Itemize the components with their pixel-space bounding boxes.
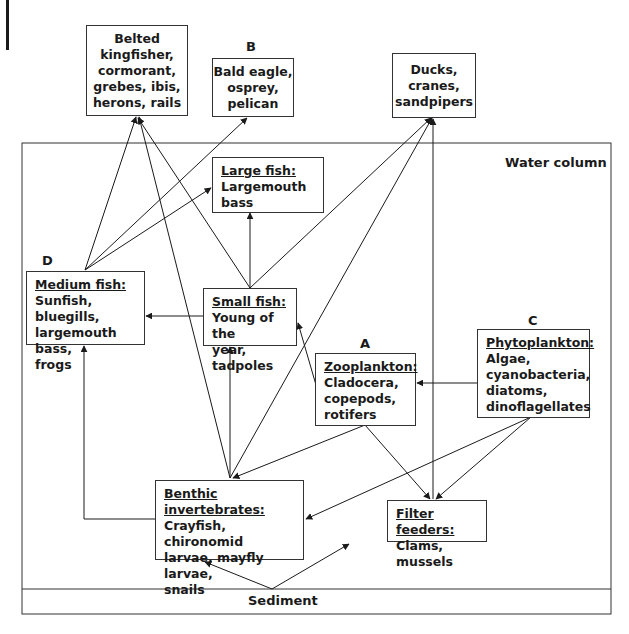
node-medium-fish-body: Sunfish, bluegills, largemouth bass, fro…: [35, 293, 136, 373]
node-benthic-body: Crayfish, chironomid larvae, mayfly larv…: [164, 518, 295, 598]
node-medium-fish: Medium fish: Sunfish, bluegills, largemo…: [26, 271, 145, 345]
edge-phyto-to-filter: [436, 417, 531, 499]
node-zooplankton-body: Cladocera, copepods, rotifers: [324, 375, 407, 423]
node-small-fish: Small fish: Young of the year, tadpoles: [203, 288, 297, 346]
node-kingfisher-group: Belted kingfisher, cormorant, grebes, ib…: [86, 25, 188, 116]
edge-medium-to-birds: [85, 117, 136, 270]
node-small-fish-body: Young of the year, tadpoles: [212, 310, 288, 374]
node-phytoplankton-body: Algae, cyanobacteria, diatoms, dinoflage…: [486, 351, 581, 415]
edge-zoo-to-benthic: [233, 425, 365, 478]
node-large-fish: Large fish: Largemouth bass: [212, 157, 324, 213]
node-raptors: Bald eagle, osprey, pelican: [212, 58, 294, 117]
node-phytoplankton: Phytoplankton: Algae, cyanobacteria, dia…: [477, 329, 590, 418]
node-benthic-invertebrates: Benthic invertebrates: Crayfish, chirono…: [155, 480, 304, 560]
node-zooplankton-title: Zooplankton:: [324, 359, 407, 375]
node-zooplankton: Zooplankton: Cladocera, copepods, rotife…: [315, 353, 416, 426]
node-filter-feeders-body: Clams, mussels: [396, 538, 478, 570]
label-d: D: [42, 253, 53, 268]
water-column-label: Water column: [505, 155, 607, 170]
node-waders-text: Ducks, cranes, sandpipers: [395, 62, 473, 110]
node-large-fish-body: Largemouth bass: [221, 179, 315, 211]
edge-zoo-to-smallfish: [298, 323, 316, 385]
node-filter-feeders-title: Filter feeders:: [396, 506, 478, 538]
node-large-fish-title: Large fish:: [221, 163, 315, 179]
label-c: C: [528, 313, 538, 328]
node-filter-feeders: Filter feeders: Clams, mussels: [387, 500, 487, 542]
node-kingfisher-text: Belted kingfisher, cormorant, grebes, ib…: [93, 31, 181, 111]
node-phytoplankton-title: Phytoplankton:: [486, 335, 581, 351]
node-raptors-text: Bald eagle, osprey, pelican: [214, 64, 293, 112]
label-b: B: [246, 39, 256, 54]
node-medium-fish-title: Medium fish:: [35, 277, 136, 293]
label-a: A: [360, 336, 370, 351]
node-benthic-title: Benthic invertebrates:: [164, 486, 295, 518]
node-small-fish-title: Small fish:: [212, 294, 288, 310]
node-waders: Ducks, cranes, sandpipers: [392, 53, 476, 118]
